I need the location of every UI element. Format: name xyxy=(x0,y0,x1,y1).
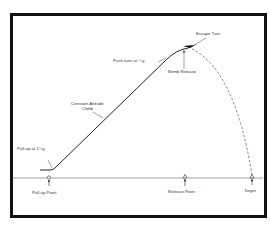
pull-up-point-label: Pull-up Point xyxy=(32,191,56,196)
target-marker xyxy=(250,175,254,186)
climb-label-line2: Climb xyxy=(71,107,104,112)
release-point-label: Release Point xyxy=(168,190,195,195)
pull-up-label: Pull-up at 1½g xyxy=(17,147,45,152)
release-point-marker xyxy=(183,175,187,187)
climb-leader xyxy=(93,112,103,118)
escape-turn-label: Escape Turn xyxy=(196,32,220,37)
pull-up-leader xyxy=(48,160,52,168)
bomb-trajectory xyxy=(192,49,252,175)
escape-turn-leader xyxy=(196,38,206,44)
pull-up-point-marker xyxy=(47,176,50,186)
bomb-release-label: Bomb Release xyxy=(168,70,196,75)
flight-path xyxy=(40,48,188,170)
climb-label: Constant Attitude Climb xyxy=(71,102,104,112)
bomb-release-arrow-icon xyxy=(183,50,186,53)
push-over-label: Push over at ½g xyxy=(113,59,144,64)
target-label: Target xyxy=(244,189,256,194)
